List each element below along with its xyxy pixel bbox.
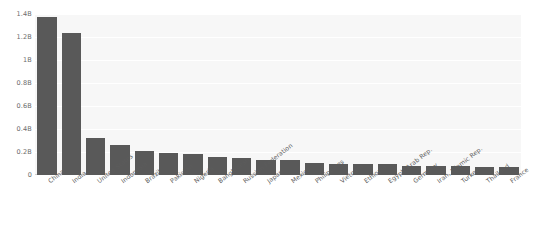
y-tick-label: 0 (28, 171, 32, 179)
y-tick-label: 1.4B (16, 10, 32, 18)
x-axis: ChinaIndiaUnited StatesIndonesiaBrazilPa… (35, 176, 525, 226)
bar (37, 17, 56, 175)
bar-chart: 00.2B0.4B0.6B0.8B1B1.2B1.4B ChinaIndiaUn… (0, 0, 537, 227)
y-axis: 00.2B0.4B0.6B0.8B1B1.2B1.4B (0, 14, 32, 175)
y-tick-label: 0.6B (16, 102, 32, 110)
y-tick-label: 0.8B (16, 79, 32, 87)
bar (62, 33, 81, 175)
y-tick-label: 1B (23, 56, 32, 64)
y-tick-label: 0.4B (16, 125, 32, 133)
bar (86, 138, 105, 175)
y-tick-label: 0.2B (16, 148, 32, 156)
y-tick-label: 1.2B (16, 33, 32, 41)
